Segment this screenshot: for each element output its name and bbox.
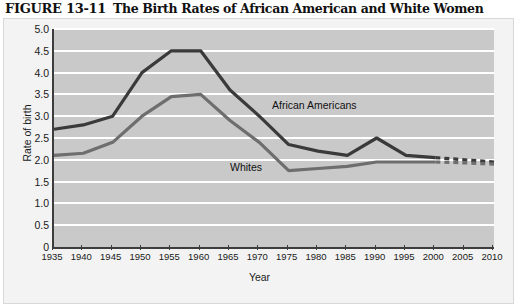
x-axis-tick: 1980: [305, 251, 326, 262]
y-axis-tick: 3.5: [34, 88, 49, 100]
y-axis-tick: 3.0: [34, 110, 49, 122]
x-axis-tick: 1950: [129, 251, 150, 262]
x-axis-tick-labels: 1935194019451950195519601965197019751980…: [52, 251, 494, 265]
figure-title-bar: FIGURE 13-11 The Birth Rates of African …: [0, 0, 517, 17]
y-axis-tick: 1.5: [34, 176, 49, 188]
x-axis-tickmark: [345, 245, 346, 250]
x-axis-tickmark: [199, 245, 200, 250]
x-axis-tickmark: [463, 245, 464, 250]
series-label-african-americans: African Americans: [272, 99, 357, 111]
y-axis-tick: 5.0: [34, 23, 49, 35]
y-axis-tick: 2.0: [34, 154, 49, 166]
y-axis-tick: 1.0: [34, 197, 49, 209]
x-axis-tick: 1985: [335, 251, 356, 262]
x-axis-tick: 1955: [159, 251, 180, 262]
x-axis-tickmark: [169, 245, 170, 250]
x-axis-label: Year: [4, 271, 515, 283]
x-axis-tickmark: [375, 245, 376, 250]
x-axis-tick: 1970: [247, 251, 268, 262]
x-axis-tick: 2010: [481, 251, 502, 262]
x-axis-tick: 1940: [71, 251, 92, 262]
y-axis-tick-labels: 5.04.54.03.53.02.52.01.51.00.50: [22, 29, 49, 247]
x-axis-tickmark: [404, 245, 405, 250]
y-axis-tick: 0.5: [34, 219, 49, 231]
x-axis-tick: 1945: [100, 251, 121, 262]
series-label-whites: Whites: [230, 161, 262, 173]
x-axis-tick: 2000: [423, 251, 444, 262]
x-axis-tickmark: [257, 245, 258, 250]
x-axis-tick: 1965: [217, 251, 238, 262]
x-axis-tickmark: [140, 245, 141, 250]
x-axis-tickmark: [492, 245, 493, 250]
x-axis-tickmark: [316, 245, 317, 250]
series-line-whites: [54, 94, 435, 170]
page-title: The Birth Rates of African American and …: [113, 1, 483, 16]
x-axis-tick: 2005: [452, 251, 473, 262]
x-axis-tick: 1960: [188, 251, 209, 262]
series-layer: [54, 29, 494, 247]
x-axis-tick: 1975: [276, 251, 297, 262]
x-axis-tickmark: [287, 245, 288, 250]
plot-area: African Americans Whites: [52, 29, 494, 249]
x-axis-tick: 1990: [364, 251, 385, 262]
figure-number: FIGURE 13-11: [5, 1, 106, 16]
x-axis-tickmark: [52, 245, 53, 250]
x-axis-tickmark: [111, 245, 112, 250]
y-axis-tick: 4.5: [34, 45, 49, 57]
x-axis-tickmark: [81, 245, 82, 250]
series-line-whites-projected: [435, 162, 494, 164]
x-axis-tickmark: [433, 245, 434, 250]
y-axis-tick: 4.0: [34, 67, 49, 79]
x-axis-tick: 1935: [41, 251, 62, 262]
y-axis-tick: 2.5: [34, 132, 49, 144]
x-axis-tickmark: [228, 245, 229, 250]
x-axis-tick: 1995: [393, 251, 414, 262]
figure-container: FIGURE 13-11 The Birth Rates of African …: [0, 0, 517, 307]
chart-card: Rate of birth 5.04.54.03.53.02.52.01.51.…: [3, 18, 514, 304]
